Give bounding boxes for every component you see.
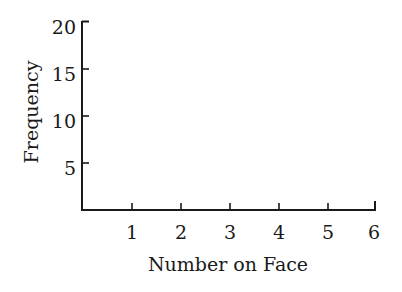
x-axis-title: Number on Face: [148, 253, 308, 275]
x-tick-label-5: 5: [322, 221, 334, 243]
y-ticks: [82, 69, 89, 163]
y-axis-title: Frequency: [20, 60, 42, 163]
frequency-chart: 20 15 10 5 1 2 3 4 5 6 Number on Face Fr…: [0, 0, 402, 292]
x-tick-label-6: 6: [368, 221, 380, 243]
x-tick-label-3: 3: [224, 221, 236, 243]
y-tick-labels: 20 15 10 5: [52, 16, 76, 179]
y-tick-label-20: 20: [52, 16, 76, 38]
y-tick-label-5: 5: [64, 157, 76, 179]
y-tick-label-15: 15: [52, 63, 76, 85]
x-tick-label-2: 2: [175, 221, 187, 243]
x-tick-labels: 1 2 3 4 5 6: [126, 221, 380, 243]
x-tick-label-4: 4: [273, 221, 285, 243]
y-tick-label-10: 10: [52, 110, 76, 132]
x-tick-label-1: 1: [126, 221, 138, 243]
